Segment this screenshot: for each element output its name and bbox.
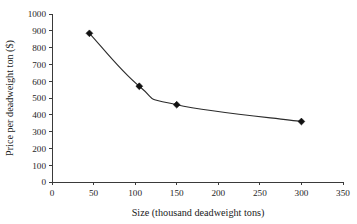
y-tick-label: 900 bbox=[32, 26, 46, 36]
chart-figure: 01002003004005006007008009001000 0501001… bbox=[0, 0, 357, 224]
y-axis-title: Price per deadweight ton ($) bbox=[4, 40, 16, 156]
y-tick-label: 100 bbox=[32, 161, 46, 171]
y-tick-label: 1000 bbox=[28, 9, 47, 19]
x-axis-title: Size (thousand deadweight tons) bbox=[132, 207, 265, 219]
x-tick-label: 250 bbox=[253, 188, 267, 198]
data-point-marker bbox=[298, 118, 305, 125]
y-tick-label: 200 bbox=[32, 144, 46, 154]
data-point-marker bbox=[173, 101, 180, 108]
x-tick-label: 0 bbox=[50, 188, 55, 198]
y-tick-label: 500 bbox=[32, 93, 46, 103]
x-tick-label: 200 bbox=[211, 188, 225, 198]
y-tick-label: 700 bbox=[32, 60, 46, 70]
x-tick-label: 50 bbox=[89, 188, 99, 198]
y-tick-label: 400 bbox=[32, 110, 46, 120]
x-axis: 050100150200250300350 bbox=[50, 182, 351, 198]
y-axis: 01002003004005006007008009001000 bbox=[28, 9, 52, 187]
x-tick-label: 150 bbox=[170, 188, 184, 198]
y-tick-label: 0 bbox=[41, 177, 46, 187]
y-tick-label: 300 bbox=[32, 127, 46, 137]
y-tick-label: 800 bbox=[32, 43, 46, 53]
x-tick-label: 300 bbox=[295, 188, 309, 198]
y-tick-label: 600 bbox=[32, 77, 46, 87]
x-tick-label: 100 bbox=[128, 188, 142, 198]
series-line bbox=[89, 33, 301, 121]
x-tick-label: 350 bbox=[336, 188, 350, 198]
chart-canvas: 01002003004005006007008009001000 0501001… bbox=[0, 0, 357, 224]
data-series bbox=[86, 30, 305, 125]
